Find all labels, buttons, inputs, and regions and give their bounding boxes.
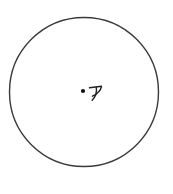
circle-diagram: Circle with a dot marking its center lab… bbox=[0, 0, 173, 194]
center-point-dot bbox=[81, 89, 85, 93]
label-glyph-down-stroke bbox=[92, 87, 96, 100]
figure-canvas: Circle with a dot marking its center lab… bbox=[0, 0, 173, 194]
center-point-label-glyph: ア bbox=[90, 86, 102, 100]
